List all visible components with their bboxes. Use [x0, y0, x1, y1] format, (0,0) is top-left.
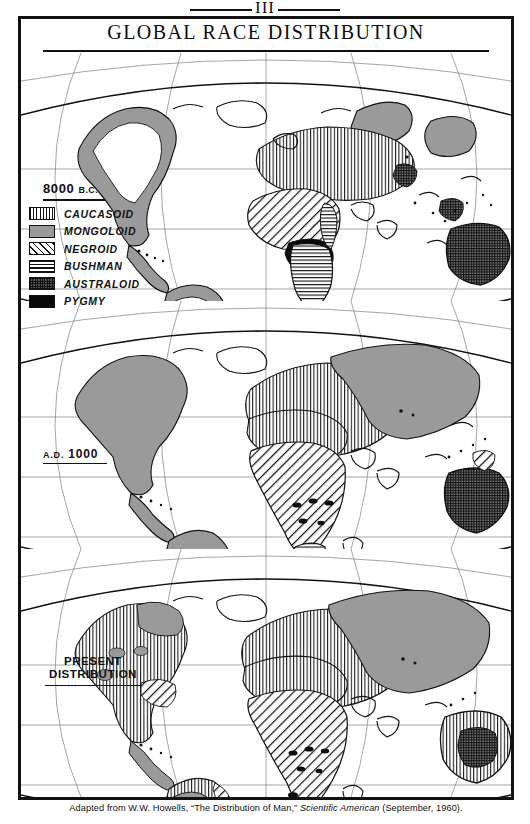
era-present-underline [45, 685, 141, 686]
era-ad1000-year: 1000 [68, 447, 98, 461]
era-ad1000-prefix: A.D. [43, 450, 64, 460]
region-australoid-sea [439, 198, 463, 221]
era-present-line1: PRESENT [37, 655, 149, 668]
legend-item-mongoloid: MONGOLOID [29, 223, 140, 241]
region-australoid-australia [446, 223, 509, 285]
legend-swatch-australoid [29, 277, 55, 290]
era-8000-main: 8000 [43, 181, 74, 196]
region-bushman-southern-africa-p2 [293, 543, 326, 585]
legend-item-caucasoid: CAUCASOID [29, 205, 140, 223]
page-title: GLOBAL RACE DISTRIBUTION [21, 21, 511, 44]
title-divider [43, 50, 489, 52]
legend-swatch-bushman [29, 260, 55, 273]
legend-item-bushman: BUSHMAN [29, 258, 140, 276]
legend-swatch-pygmy [29, 295, 55, 308]
era-8000-underline [43, 199, 105, 201]
region-caucasoid-eurasia [256, 127, 414, 200]
region-mongoloid-ne-asia-2 [425, 116, 476, 156]
era-8000-suffix: B.C. [79, 185, 99, 195]
region-australoid-australia-p2 [444, 468, 508, 533]
legend-label-australoid: AUSTRALOID [64, 278, 140, 290]
region-negroid-africa-p2 [250, 442, 346, 557]
region-negroid-africa-p3 [248, 690, 347, 797]
legend-swatch-negroid [29, 242, 55, 255]
legend-swatch-mongoloid [29, 225, 55, 238]
legend: CAUCASOID MONGOLOID NEGROID BUSHMAN AUST… [29, 205, 140, 310]
attribution-suffix: (September, 1960). [380, 803, 463, 813]
legend-item-australoid: AUSTRALOID [29, 275, 140, 293]
era-present-line2: DISTRIBUTION [37, 668, 149, 681]
era-ad1000-underline [43, 463, 107, 464]
source-attribution: Adapted from W.W. Howells, “The Distribu… [18, 803, 514, 813]
era-label-ad1000: A.D. 1000 [43, 448, 98, 462]
era-label-8000bc: 8000 B.C. [43, 182, 98, 197]
era-label-present: PRESENT DISTRIBUTION [37, 655, 149, 681]
legend-label-bushman: BUSHMAN [64, 260, 123, 272]
region-bushman-southern-africa [291, 244, 333, 309]
legend-item-negroid: NEGROID [29, 240, 140, 258]
plate-frame: GLOBAL RACE DISTRIBUTION [18, 16, 514, 800]
legend-label-caucasoid: CAUCASOID [64, 208, 134, 220]
attribution-prefix: Adapted from W.W. Howells, “The Distribu… [69, 803, 300, 813]
legend-label-negroid: NEGROID [64, 243, 118, 255]
region-mongoloid-north-america-p2 [75, 356, 187, 495]
legend-label-pygmy: PYGMY [64, 295, 105, 307]
attribution-journal: Scientific American [300, 803, 380, 813]
plate-number: III [0, 0, 530, 16]
legend-item-pygmy: PYGMY [29, 293, 140, 311]
legend-swatch-caucasoid [29, 207, 55, 220]
region-australoid-australia-p3 [458, 727, 498, 767]
legend-label-mongoloid: MONGOLOID [64, 225, 136, 237]
